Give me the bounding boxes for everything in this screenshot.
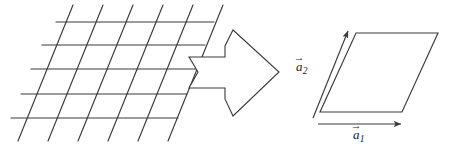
vector-subscript-a1: 1: [360, 134, 365, 144]
vector-accent-a1: →: [351, 121, 362, 132]
basis-vector-a2: [313, 31, 348, 118]
lattice-slanted-line: [108, 5, 163, 141]
lattice-slanted-line: [18, 5, 73, 141]
basis-vector-a1-label: →a1: [353, 126, 364, 144]
lattice-slanted-line: [138, 5, 193, 141]
lattice-slanted-line: [78, 5, 133, 141]
transformation-arrow: [189, 30, 279, 116]
figure-canvas: [0, 0, 459, 149]
oblique-lattice: [11, 5, 223, 141]
lattice-slanted-lines: [18, 5, 223, 141]
primitive-unit-cell: [320, 33, 438, 112]
lattice-unit-cell-figure: →a2 →a1: [0, 0, 459, 149]
basis-vectors: [313, 31, 401, 124]
lattice-slanted-line: [48, 5, 103, 141]
vector-subscript-a2: 2: [303, 66, 308, 76]
basis-vector-a2-label: →a2: [296, 58, 307, 76]
vector-accent-a2: →: [294, 53, 305, 64]
